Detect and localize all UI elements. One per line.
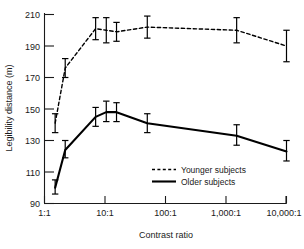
series-line [55,27,286,123]
error-bar [283,30,289,62]
x-axis-tick-labels: 1:1 10:1 100:1 1,000:1 10,000:1 [38,208,301,218]
error-bar [62,59,68,78]
y-tick-label-130: 130 [25,136,40,146]
y-tick-label-110: 110 [26,168,40,178]
error-bar [233,18,239,43]
series-older-subjects [52,101,290,194]
axes [44,13,287,204]
y-axis-ticks [44,15,54,204]
x-axis-ticks [45,196,287,204]
chart-legend: Younger subjects Older subjects [152,165,246,187]
series-line [55,112,286,188]
chart-figure: 210 190 170 150 130 110 90 1:1 10:1 100:… [0,0,304,249]
y-axis-tick-labels: 210 190 170 150 130 110 90 [25,10,40,209]
y-tick-label-170: 170 [25,73,40,83]
y-axis-title: Legibility distance (m) [4,64,14,151]
x-tick-label-1-1: 1:1 [38,208,51,218]
x-tick-label-10-1: 10:1 [96,208,114,218]
legibility-distance-line-chart: 210 190 170 150 130 110 90 1:1 10:1 100:… [0,0,304,249]
legend-label-younger: Younger subjects [181,165,246,175]
series-younger-subjects [52,16,290,133]
y-tick-label-210: 210 [25,10,40,20]
y-tick-label-150: 150 [25,105,40,115]
legend-label-older: Older subjects [181,177,235,187]
error-bar [52,114,58,133]
x-tick-label-1000-1: 1,000:1 [211,208,241,218]
x-tick-label-10000-1: 10,000:1 [266,208,301,218]
y-tick-label-190: 190 [25,42,40,52]
x-axis-title: Contrast ratio [139,230,193,240]
x-tick-label-100-1: 100:1 [154,208,177,218]
